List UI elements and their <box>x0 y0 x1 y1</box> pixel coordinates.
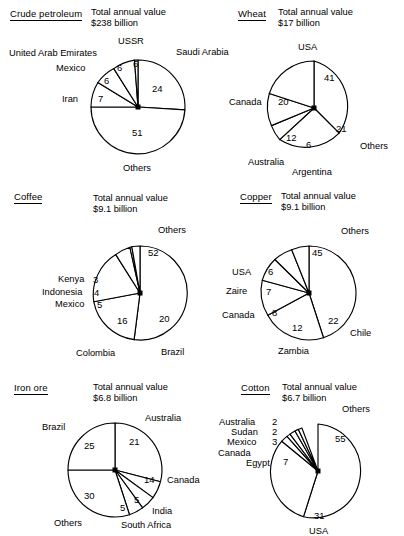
slice-label-zaire: Zaire <box>226 286 247 296</box>
pie-hub <box>113 468 118 473</box>
slice-value-others: 55 <box>335 434 346 444</box>
pie-crude-petroleum <box>0 0 202 178</box>
pie-wheat <box>202 0 404 178</box>
slice-label-australia: Australia <box>219 417 255 427</box>
slice-value-zaire: 7 <box>266 287 271 297</box>
slice-label-others: Others <box>360 141 388 151</box>
pie-hub <box>307 291 312 296</box>
slice-label-others: Others <box>123 163 151 173</box>
slice-value-australia: 12 <box>286 133 297 143</box>
slice-value-others: 45 <box>312 248 323 258</box>
slice-value-united-arab-emirates: 6 <box>117 63 122 73</box>
chart-panel-wheat: Wheat Total annual value $17 billion 41 … <box>202 0 404 178</box>
slice-value-canada: 20 <box>278 97 289 107</box>
slice-label-usa: USA <box>232 267 251 277</box>
slice-value-sudan: 2 <box>272 427 277 437</box>
slice-value-mexico: 6 <box>104 76 109 86</box>
chart-panel-coffee: Coffee Total annual value $9.1 billion 5… <box>0 183 202 361</box>
slice-label-ussr: USSR <box>118 36 144 46</box>
slice-value-canada: 8 <box>272 308 277 318</box>
slice-value-iran: 7 <box>98 94 103 104</box>
slice-value-australia: 21 <box>129 437 140 447</box>
slice-value-others: 51 <box>132 128 143 138</box>
slice-label-zambia: Zambia <box>278 346 309 356</box>
slice-label-usa: USA <box>309 526 328 536</box>
slice-value-kenya: 3 <box>93 275 98 285</box>
slice-label-mexico: Mexico <box>56 63 85 73</box>
slice-label-colombia: Colombia <box>76 348 115 358</box>
slice-label-united-arab-emirates: United Arab Emirates <box>9 48 97 58</box>
slice-label-egypt: Egypt <box>246 458 270 468</box>
slice-value-mexico: 5 <box>97 300 102 310</box>
slice-value-south-africa: 5 <box>120 503 125 513</box>
pie-hub <box>138 291 143 296</box>
slice-label-canada: Canada <box>218 448 251 458</box>
slice-label-others: Others <box>54 518 82 528</box>
slice-label-canada: Canada <box>222 310 255 320</box>
pie-hub <box>316 469 321 474</box>
slice-value-colombia: 16 <box>117 316 128 326</box>
slice-value-egypt: 7 <box>283 457 288 467</box>
slice-label-south-africa: South Africa <box>121 520 171 530</box>
slice-label-indonesia: Indonesia <box>42 287 82 297</box>
chart-panel-copper: Copper Total annual value $9.1 billion 4… <box>202 183 404 361</box>
slice-label-argentina: Argentina <box>292 167 332 177</box>
pie-hub <box>136 105 141 110</box>
slice-label-mexico: Mexico <box>55 299 84 309</box>
slice-value-argentina: 6 <box>306 140 311 150</box>
slice-value-brazil: 20 <box>159 314 170 324</box>
slice-value-canada: 14 <box>144 475 155 485</box>
slice-value-indonesia: 4 <box>94 288 99 298</box>
slice-label-canada: Canada <box>167 475 200 485</box>
slice-label-india: India <box>152 506 172 516</box>
slice-label-kenya: Kenya <box>58 274 84 284</box>
slice-value-brazil: 25 <box>84 441 95 451</box>
pie-coffee <box>0 183 202 361</box>
slice-label-canada: Canada <box>229 97 262 107</box>
slice-value-saudi-arabia: 24 <box>152 84 163 94</box>
slice-value-others: 52 <box>148 248 159 258</box>
slice-label-brazil: Brazil <box>161 347 184 357</box>
slice-label-others: Others <box>341 226 369 236</box>
slice-label-mexico: Mexico <box>227 437 256 447</box>
slice-value-usa: 41 <box>324 73 335 83</box>
slice-value-india: 5 <box>134 495 139 505</box>
slice-value-chile: 22 <box>328 316 339 326</box>
slice-label-sudan: Sudan <box>231 427 258 437</box>
slice-value-mexico: 3 <box>272 437 277 447</box>
slice-label-chile: Chile <box>350 328 371 338</box>
slice-label-usa: USA <box>298 42 317 52</box>
slice-value-usa: 6 <box>268 267 273 277</box>
slice-value-ussr: 6 <box>133 59 138 69</box>
chart-panel-cotton: Cotton Total annual value $6.7 billion 5… <box>202 372 404 536</box>
chart-panel-crude-petroleum: Crude petroleum Total annual value $238 … <box>0 0 202 178</box>
slice-label-iran: Iran <box>62 94 78 104</box>
chart-panel-iron-ore: Iron ore Total annual value $6.8 billion… <box>0 372 202 536</box>
slice-label-australia: Australia <box>248 157 284 167</box>
slice-label-others: Others <box>342 404 370 414</box>
slice-label-others: Others <box>158 225 186 235</box>
slice-label-brazil: Brazil <box>42 422 65 432</box>
slice-label-australia: Australia <box>145 413 181 423</box>
slice-value-others: 30 <box>84 491 95 501</box>
slice-value-others: 21 <box>336 124 347 134</box>
slice-value-australia: 2 <box>272 417 277 427</box>
slice-value-usa: 31 <box>314 511 325 521</box>
slice-value-zambia: 12 <box>292 323 303 333</box>
pie-hub <box>312 106 317 111</box>
